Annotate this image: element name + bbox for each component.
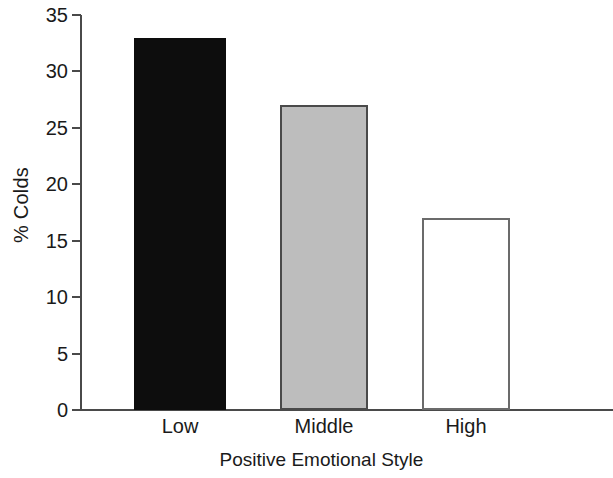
- bar-high[interactable]: [422, 218, 510, 410]
- bar-chart: % Colds 05101520253035 LowMiddleHigh Pos…: [0, 0, 613, 478]
- x-axis-tick-label-low: Low: [162, 416, 199, 436]
- bar-middle[interactable]: [280, 105, 368, 410]
- x-axis-title-text: Positive Emotional Style: [220, 450, 424, 469]
- x-axis-title: Positive Emotional Style: [0, 450, 613, 469]
- x-axis-tick-label-middle: Middle: [295, 416, 354, 436]
- plot-area: LowMiddleHigh: [0, 0, 613, 478]
- x-axis-tick-label-high: High: [445, 416, 486, 436]
- bar-low[interactable]: [134, 38, 226, 410]
